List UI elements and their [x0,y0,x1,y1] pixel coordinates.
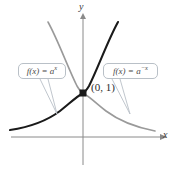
y-axis-arrow [80,13,86,19]
callout-right-equals: = [126,66,137,76]
callout-left-formula: f(x) = ax [27,67,57,76]
intersection-point-marker [80,90,87,97]
callout-decreasing-function: f(x) = a−x [103,63,158,79]
left-callout-leader [40,79,57,114]
exponential-functions-figure: y x (0, 1) f(x) = ax f(x) = a−x [0,0,173,174]
callout-left-exponent: x [54,64,57,71]
callout-left-equals: = [39,66,50,76]
point-label: (0, 1) [91,82,115,93]
x-axis-label: x [163,130,167,140]
callout-right-exponent: −x [141,64,148,71]
callout-right-fn: f(x) [113,66,126,76]
y-axis-label: y [79,2,83,12]
callout-increasing-function: f(x) = ax [18,63,66,79]
graph-canvas [0,0,173,174]
callout-right-formula: f(x) = a−x [113,67,148,76]
callout-left-fn: f(x) [27,66,40,76]
